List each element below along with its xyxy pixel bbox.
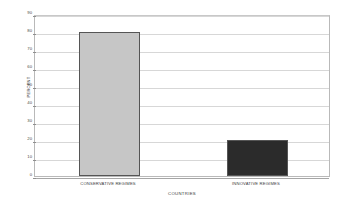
plot-area (34, 15, 330, 177)
y-axis-tick-label: 90 (17, 11, 32, 15)
y-axis-tick-label: 20 (17, 137, 32, 141)
bars-layer (35, 16, 329, 176)
y-axis-tick-label: 70 (17, 47, 32, 51)
y-axis-tick-label: 50 (17, 83, 32, 87)
y-axis-tick-label: 40 (17, 101, 32, 105)
x-axis-category-label: CONSERVATIVE REGIMES (34, 180, 182, 188)
x-axis-title: COUNTRIES (34, 190, 330, 198)
gridline (35, 178, 329, 179)
y-axis-tick-mark (33, 178, 36, 179)
bar-chart: PERCENT 9080706050403020100 CONSERVATIVE… (0, 0, 350, 207)
y-axis-tick-label: 0 (17, 173, 32, 177)
x-axis-category-label: INNOVATIVE REGIMES (182, 180, 330, 188)
y-axis-tick-label: 30 (17, 119, 32, 123)
x-axis-category-labels: CONSERVATIVE REGIMESINNOVATIVE REGIMES (34, 180, 330, 188)
y-axis-tick-label: 60 (17, 65, 32, 69)
y-axis-tick-label: 80 (17, 29, 32, 33)
y-axis-tick-labels: 9080706050403020100 (17, 13, 32, 177)
y-axis-tick-label: 10 (17, 155, 32, 159)
bar (227, 140, 288, 176)
bar (79, 32, 140, 176)
